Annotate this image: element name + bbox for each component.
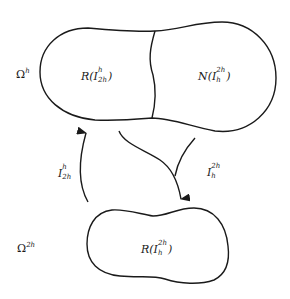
restriction-arrow <box>119 131 181 199</box>
interpolation-operator-label: Ih2h <box>58 167 72 181</box>
coarse-space-sup: 2h <box>26 241 35 249</box>
fine-space-label: Ωh <box>16 69 30 80</box>
coarse-space-label: Ω2h <box>17 243 35 254</box>
fine-space-boundary <box>40 22 276 131</box>
restriction-arrow-branch <box>175 138 195 176</box>
interpolation-arrow <box>80 133 88 202</box>
restriction-operator-label: I2hh <box>207 166 221 180</box>
nullspace-restriction-label: N(I2hh) <box>198 70 231 84</box>
omega-symbol: Ω <box>16 68 25 81</box>
fine-space-sup: h <box>25 67 30 75</box>
range-restriction-label: R(I2hh) <box>141 243 172 257</box>
omega-symbol: Ω <box>17 242 26 255</box>
range-interpolation-label: R(Ih2h) <box>81 70 112 84</box>
region-divider <box>150 31 155 118</box>
